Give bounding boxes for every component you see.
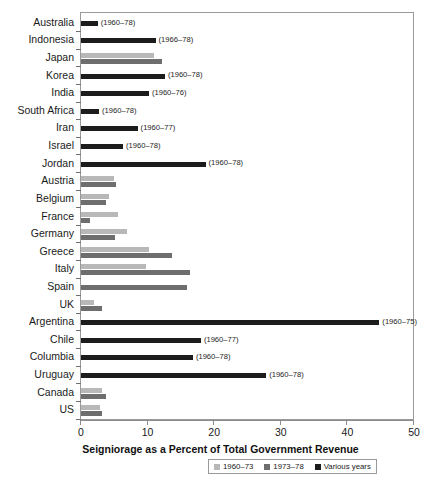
- x-tick-50: [413, 420, 414, 425]
- bar-belgium-series-0: [81, 194, 109, 199]
- bar-annotation-argentina: (1960–75): [382, 318, 417, 326]
- x-axis-title: Seigniorage as a Percent of Total Govern…: [0, 443, 441, 455]
- bar-south-africa-series-2: [81, 109, 99, 114]
- x-tick-label-20: 20: [208, 426, 220, 438]
- y-axis-tick: [76, 137, 81, 138]
- x-tick-10: [147, 420, 148, 425]
- y-axis-tick: [76, 172, 81, 173]
- category-label-australia: Australia: [0, 17, 74, 28]
- legend-swatch-icon: [214, 464, 220, 470]
- bar-annotation-uruguay: (1960–78): [269, 371, 304, 379]
- bar-argentina-series-2: [81, 320, 379, 325]
- category-label-columbia: Columbia: [0, 351, 74, 362]
- bar-annotation-chile: (1960–77): [204, 336, 239, 344]
- legend-item-1973-78: 1973–78: [264, 462, 303, 471]
- y-axis-tick: [76, 49, 81, 50]
- bar-belgium-series-1: [81, 200, 106, 205]
- legend-label: 1973–78: [273, 462, 303, 471]
- legend-label: 1960–73: [223, 462, 253, 471]
- y-axis-tick: [76, 31, 81, 32]
- bar-annotation-korea: (1960–78): [168, 71, 203, 79]
- y-axis-tick: [76, 383, 81, 384]
- category-label-jordan: Jordan: [0, 158, 74, 169]
- y-axis-tick: [76, 102, 81, 103]
- category-label-south-africa: South Africa: [0, 105, 74, 116]
- y-axis-tick: [76, 401, 81, 402]
- bar-uruguay-series-2: [81, 373, 266, 378]
- bar-us-series-1: [81, 411, 102, 416]
- bar-annotation-south-africa: (1960–78): [102, 107, 137, 115]
- category-label-us: US: [0, 404, 74, 415]
- bar-annotation-israel: (1960–78): [126, 142, 161, 150]
- bar-us-series-0: [81, 405, 100, 410]
- legend-item-various-years: Various years: [315, 462, 371, 471]
- bar-austria-series-1: [81, 182, 116, 187]
- legend-swatch-icon: [315, 464, 321, 470]
- seigniorage-bar-chart: Australia(1960–78)Indonesia(1966–78)Japa…: [0, 0, 441, 485]
- y-axis-tick: [76, 225, 81, 226]
- x-tick-20: [213, 420, 214, 425]
- bar-israel-series-2: [81, 144, 123, 149]
- legend-label: Various years: [324, 462, 371, 471]
- x-tick-30: [280, 420, 281, 425]
- x-tick-label-10: 10: [142, 426, 154, 438]
- category-label-korea: Korea: [0, 70, 74, 81]
- category-label-chile: Chile: [0, 334, 74, 345]
- y-axis-tick: [76, 190, 81, 191]
- x-tick-label-50: 50: [408, 426, 420, 438]
- x-tick-label-30: 30: [275, 426, 287, 438]
- category-label-uk: UK: [0, 299, 74, 310]
- category-label-uruguay: Uruguay: [0, 369, 74, 380]
- bar-spain-series-1: [81, 285, 187, 290]
- legend-swatch-icon: [264, 464, 270, 470]
- bar-japan-series-1: [81, 59, 162, 64]
- bar-annotation-columbia: (1960–78): [196, 353, 231, 361]
- y-axis-tick: [76, 295, 81, 296]
- category-label-greece: Greece: [0, 246, 74, 257]
- bar-annotation-jordan: (1960–78): [209, 159, 244, 167]
- category-label-belgium: Belgium: [0, 193, 74, 204]
- bar-columbia-series-2: [81, 355, 193, 360]
- y-axis-tick: [76, 348, 81, 349]
- bar-annotation-india: (1960–76): [152, 89, 187, 97]
- bar-france-series-0: [81, 212, 118, 217]
- y-axis-tick: [76, 154, 81, 155]
- category-label-argentina: Argentina: [0, 316, 74, 327]
- bar-uk-series-0: [81, 300, 94, 305]
- x-tick-40: [346, 420, 347, 425]
- bar-canada-series-0: [81, 388, 102, 393]
- bar-italy-series-1: [81, 270, 190, 275]
- y-axis-tick: [76, 207, 81, 208]
- bar-korea-series-2: [81, 74, 165, 79]
- category-label-austria: Austria: [0, 175, 74, 186]
- bar-australia-series-2: [81, 21, 98, 26]
- category-label-indonesia: Indonesia: [0, 34, 74, 45]
- bar-iran-series-2: [81, 126, 138, 131]
- category-label-france: France: [0, 211, 74, 222]
- bar-germany-series-1: [81, 235, 115, 240]
- bar-uk-series-1: [81, 306, 102, 311]
- y-axis-tick: [76, 278, 81, 279]
- bar-indonesia-series-2: [81, 38, 156, 43]
- bar-canada-series-1: [81, 394, 106, 399]
- category-label-israel: Israel: [0, 140, 74, 151]
- x-axis-line: [80, 420, 414, 421]
- y-axis-tick: [76, 242, 81, 243]
- bar-india-series-2: [81, 91, 149, 96]
- chart-legend: 1960–73 1973–78 Various years: [208, 459, 377, 474]
- bar-france-series-1: [81, 218, 90, 223]
- bar-austria-series-0: [81, 176, 114, 181]
- bar-chile-series-2: [81, 338, 201, 343]
- bar-italy-series-0: [81, 264, 146, 269]
- x-tick-0: [80, 420, 81, 425]
- bar-greece-series-0: [81, 247, 149, 252]
- y-axis-tick: [76, 66, 81, 67]
- chart-rows: Australia(1960–78)Indonesia(1966–78)Japa…: [0, 0, 441, 485]
- category-label-canada: Canada: [0, 387, 74, 398]
- x-tick-label-40: 40: [342, 426, 354, 438]
- category-label-iran: Iran: [0, 122, 74, 133]
- y-axis-tick: [76, 330, 81, 331]
- category-label-japan: Japan: [0, 52, 74, 63]
- y-axis-tick: [76, 313, 81, 314]
- category-label-india: India: [0, 87, 74, 98]
